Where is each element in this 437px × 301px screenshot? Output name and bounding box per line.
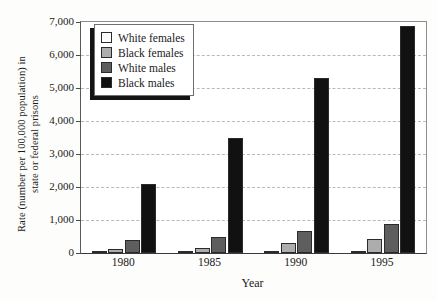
x-axis-tick-label: 1990	[284, 256, 307, 269]
legend-swatch-icon	[101, 62, 112, 73]
legend-swatch-icon	[101, 47, 112, 58]
legend-swatch-icon	[101, 77, 112, 88]
x-axis-tick-label: 1995	[370, 256, 393, 269]
x-axis-tick-label: 1980	[112, 256, 135, 269]
bar	[178, 251, 193, 253]
x-axis-tick-labels: 1980198519901995	[80, 256, 425, 272]
y-axis-title-line1: Rate (number per 100,000 population) in	[16, 29, 29, 259]
legend-item-label: White males	[118, 62, 176, 74]
y-axis-tick-label: 3,000	[32, 148, 74, 159]
y-axis-tick-label: 4,000	[32, 115, 74, 126]
bar	[400, 26, 415, 253]
bar	[264, 251, 279, 253]
bar	[211, 237, 226, 253]
x-axis-title: Year	[80, 276, 425, 290]
legend-item-label: White females	[118, 32, 185, 44]
chart-legend: White femalesBlack femalesWhite malesBla…	[94, 24, 194, 96]
legend-item: Black females	[101, 45, 185, 60]
bar	[195, 248, 210, 253]
bar	[281, 243, 296, 253]
legend-item-label: Black males	[118, 77, 175, 89]
y-axis-tick-label: 0	[32, 247, 74, 258]
bar-chart: Rate (number per 100,000 population) in …	[0, 0, 437, 301]
bar-group	[254, 22, 340, 253]
bar	[351, 251, 366, 253]
x-axis-tick-label: 1985	[198, 256, 221, 269]
bar	[314, 78, 329, 253]
legend-item: White females	[101, 30, 185, 45]
bar	[125, 240, 140, 253]
bar	[108, 249, 123, 253]
bar	[228, 138, 243, 254]
legend-swatch-icon	[101, 32, 112, 43]
y-axis-tick-labels: 01,0002,0003,0004,0005,0006,0007,000	[32, 0, 74, 301]
legend-item: White males	[101, 60, 185, 75]
y-axis-tick-label: 2,000	[32, 181, 74, 192]
bar	[367, 239, 382, 253]
bar	[297, 231, 312, 253]
bar	[384, 224, 399, 253]
y-axis-tick-mark	[76, 253, 81, 254]
bar-group	[340, 22, 426, 253]
y-axis-tick-label: 5,000	[32, 82, 74, 93]
y-axis-tick-label: 1,000	[32, 214, 74, 225]
y-axis-tick-label: 7,000	[32, 16, 74, 27]
bar	[92, 251, 107, 253]
legend-item: Black males	[101, 75, 185, 90]
bar	[141, 184, 156, 253]
y-axis-tick-label: 6,000	[32, 49, 74, 60]
legend-item-label: Black females	[118, 47, 183, 59]
